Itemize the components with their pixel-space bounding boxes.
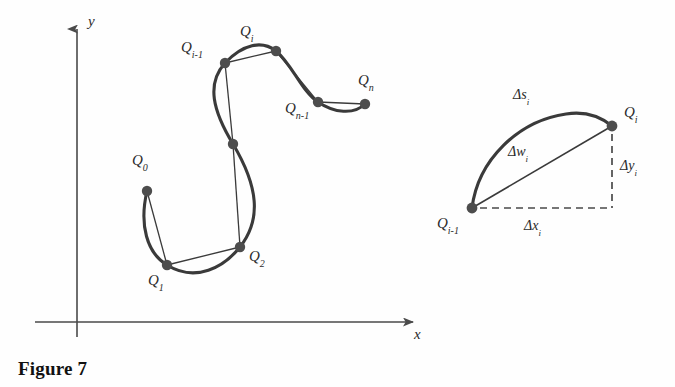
main-curve-arc [144,45,365,273]
label-point-q1: Q1 [148,272,164,291]
chord-qn-1-qn [318,102,365,104]
detail-label-qi: Qi [624,104,638,123]
point-q2 [235,242,245,252]
coordinate-axes [35,29,413,337]
point-qn-1 [313,97,323,107]
detail-triangle-group [467,113,618,213]
delta-s-label: Δsi [513,86,529,105]
delta-y-label: Δyi [620,157,637,176]
point-qmid [228,139,238,149]
point-qn [360,99,370,109]
detail-point-qi [607,121,618,132]
chord-q1-q2 [167,247,240,265]
point-qi-1 [220,58,230,68]
curve-sample-points [142,46,370,270]
delta-x-label: Δxi [524,217,541,236]
figure-7-container: Q0 Q1 Q2 Qi-1 Qi Qn-1 Qn y x Qi-1 Qi Δsi… [0,0,675,387]
point-q1 [162,260,172,270]
chord-qi-qn-1 [276,51,318,102]
figure-caption: Figure 7 [18,358,87,380]
detail-arc-delta-s [472,113,612,208]
chord-q2-qmid [233,144,240,247]
detail-label-qi-minus-1: Qi-1 [437,215,459,234]
main-curve-group [142,45,370,273]
detail-chord-delta-w [472,126,612,208]
point-q0 [142,186,152,196]
detail-point-qi-1 [467,203,478,214]
label-point-q0: Q0 [132,152,148,171]
label-point-qn: Qn [358,72,374,91]
inscribed-polygon-chords [147,51,365,265]
label-point-qi-minus-1: Qi-1 [181,39,203,58]
label-point-qi: Qi [240,23,254,42]
label-point-q2: Q2 [249,248,265,267]
label-point-qn-minus-1: Qn-1 [285,100,309,119]
y-axis-label: y [88,13,95,30]
x-axis-label: x [414,326,421,343]
point-qi [271,46,281,56]
chord-q0-q1 [147,191,167,265]
figure-drawing-canvas [0,0,675,387]
delta-w-label: Δwi [508,143,528,162]
